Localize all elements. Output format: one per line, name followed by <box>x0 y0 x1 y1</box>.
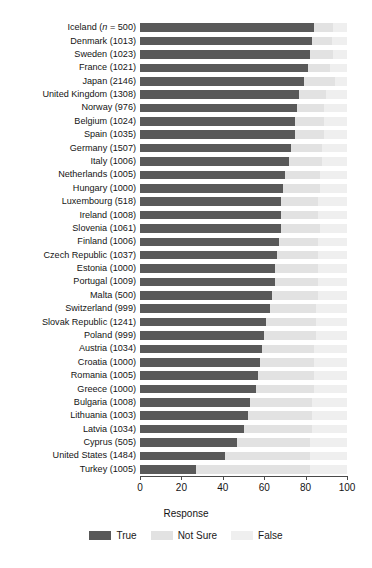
category-label: Switzerland (999) <box>0 303 136 313</box>
bar-segment-true <box>140 438 237 447</box>
bar-segment-not-sure <box>277 251 318 260</box>
bar-segment-true <box>140 358 260 367</box>
bar-segment-true <box>140 197 281 206</box>
category-label: Spain (1035) <box>0 129 136 139</box>
x-tick-label: 80 <box>300 482 311 494</box>
bar-segment-true <box>140 371 258 380</box>
bar-row <box>140 398 347 407</box>
bar-row <box>140 23 347 32</box>
bar-segment-false <box>314 358 347 367</box>
bar-row <box>140 318 347 327</box>
bar-segment-true <box>140 251 277 260</box>
legend-swatch-icon <box>231 531 253 540</box>
bar-row <box>140 385 347 394</box>
bar-segment-true <box>140 345 262 354</box>
x-tick <box>347 476 348 480</box>
category-label: Iceland (n = 500) <box>0 22 136 32</box>
bar-segment-false <box>310 438 347 447</box>
bar-segment-true <box>140 452 225 461</box>
bar-segment-false <box>312 398 347 407</box>
bar-segment-not-sure <box>262 345 314 354</box>
bar-row <box>140 144 347 153</box>
category-label: Belgium (1024) <box>0 116 136 126</box>
bar-segment-not-sure <box>297 104 324 113</box>
bar-segment-not-sure <box>272 291 318 300</box>
bar-row <box>140 371 347 380</box>
bar-row <box>140 90 347 99</box>
bar-row <box>140 452 347 461</box>
category-label: Romania (1005) <box>0 370 136 380</box>
legend-item-not-sure[interactable]: Not Sure <box>151 530 217 541</box>
category-label: Ireland (1008) <box>0 210 136 220</box>
bar-row <box>140 411 347 420</box>
bar-segment-not-sure <box>264 331 316 340</box>
x-tick <box>306 476 307 480</box>
bar-segment-not-sure <box>256 385 314 394</box>
category-label: United States (1484) <box>0 450 136 460</box>
bar-segment-true <box>140 398 250 407</box>
bar-segment-true <box>140 50 310 59</box>
bar-segment-false <box>318 211 347 220</box>
category-label: Norway (976) <box>0 102 136 112</box>
bar-segment-false <box>320 171 347 180</box>
x-tick <box>181 476 182 480</box>
bar-segment-true <box>140 385 256 394</box>
legend-label: Not Sure <box>178 530 217 541</box>
legend-item-false[interactable]: False <box>231 530 282 541</box>
bar-segment-true <box>140 304 270 313</box>
bar-segment-false <box>310 452 347 461</box>
category-label: Denmark (1013) <box>0 36 136 46</box>
bar-segment-false <box>316 331 347 340</box>
category-label: Poland (999) <box>0 330 136 340</box>
bar-segment-not-sure <box>250 398 312 407</box>
bar-row <box>140 64 347 73</box>
bar-segment-not-sure <box>281 224 320 233</box>
bar-segment-true <box>140 318 266 327</box>
category-label: Austria (1034) <box>0 343 136 353</box>
bar-segment-true <box>140 117 295 126</box>
bar-segment-false <box>314 371 347 380</box>
category-label: United Kingdom (1308) <box>0 89 136 99</box>
bar-segment-true <box>140 291 272 300</box>
bar-row <box>140 304 347 313</box>
bar-segment-true <box>140 64 308 73</box>
category-label: Lithuania (1003) <box>0 410 136 420</box>
bar-segment-not-sure <box>275 278 318 287</box>
bar-segment-not-sure <box>244 425 312 434</box>
category-label: Hungary (1000) <box>0 183 136 193</box>
bar-row <box>140 157 347 166</box>
bar-segment-not-sure <box>281 211 318 220</box>
stacked-bar-chart: Iceland (n = 500)Denmark (1013)Sweden (1… <box>0 0 372 568</box>
bar-row <box>140 251 347 260</box>
bar-segment-false <box>318 251 347 260</box>
bar-segment-true <box>140 411 248 420</box>
x-axis-title: Response <box>0 508 372 519</box>
bar-segment-false <box>320 224 347 233</box>
bar-row <box>140 465 347 474</box>
bar-row <box>140 197 347 206</box>
bar-segment-true <box>140 331 264 340</box>
bar-segment-not-sure <box>281 197 318 206</box>
bar-segment-not-sure <box>285 171 320 180</box>
bar-segment-true <box>140 171 285 180</box>
bar-segment-not-sure <box>275 264 318 273</box>
bar-segment-false <box>320 184 347 193</box>
bar-segment-false <box>316 304 347 313</box>
bar-segment-false <box>314 345 347 354</box>
bar-segment-false <box>314 385 347 394</box>
legend-item-true[interactable]: True <box>89 530 136 541</box>
bar-row <box>140 117 347 126</box>
bar-segment-true <box>140 211 281 220</box>
category-label: Czech Republic (1037) <box>0 250 136 260</box>
category-label: Japan (2146) <box>0 76 136 86</box>
bar-row <box>140 211 347 220</box>
legend: TrueNot SureFalse <box>0 530 372 541</box>
bar-segment-false <box>318 238 347 247</box>
bar-segment-true <box>140 184 283 193</box>
category-label: Cyprus (505) <box>0 437 136 447</box>
bar-segment-not-sure <box>248 411 312 420</box>
bar-segment-not-sure <box>304 77 335 86</box>
bar-segment-true <box>140 23 314 32</box>
bar-segment-not-sure <box>270 304 316 313</box>
bar-segment-false <box>330 64 347 73</box>
